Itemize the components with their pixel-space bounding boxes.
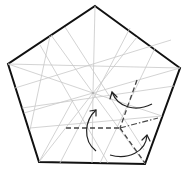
pentagon-outline <box>8 6 180 164</box>
center-point <box>92 92 94 94</box>
origami-diagram <box>0 0 190 173</box>
pentagon-paper <box>8 6 180 164</box>
